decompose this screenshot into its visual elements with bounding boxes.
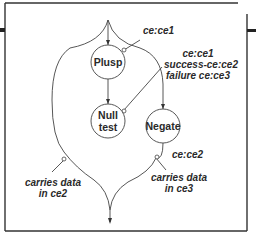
plusp-port-icon bbox=[122, 48, 126, 52]
arrow-output-icon bbox=[108, 218, 112, 224]
nulltest-label: Null test bbox=[88, 109, 128, 133]
left-branch-annotation-line bbox=[52, 160, 64, 172]
arrow-into-plusp-icon bbox=[106, 40, 110, 45]
right-branch-annotation-line2: in ce3 bbox=[146, 183, 212, 194]
right-branch-annotation-line bbox=[156, 158, 166, 170]
nulltest-annotation-line2: success-ce:ce2 bbox=[164, 59, 232, 70]
nulltest-annotation-line3: failure ce:ce3 bbox=[164, 70, 232, 81]
negate-output-annotation: ce:ce2 bbox=[172, 149, 203, 160]
plusp-annotation-line bbox=[124, 40, 140, 50]
nulltest-annotation-line bbox=[124, 67, 162, 110]
plusp-label: Plusp bbox=[88, 56, 128, 68]
diagram-canvas bbox=[0, 0, 256, 236]
left-branch-annotation-line1: carries data bbox=[20, 177, 86, 188]
right-branch-port-icon bbox=[155, 155, 159, 159]
arrow-into-nulltest-icon bbox=[106, 99, 110, 104]
negate-label: Negate bbox=[143, 120, 183, 132]
left-branch-port-icon bbox=[62, 157, 66, 161]
right-tick-mark bbox=[247, 29, 256, 32]
plusp-output-annotation: ce:ce1 bbox=[143, 25, 174, 36]
right-branch-annotation-line1: carries data bbox=[146, 172, 212, 183]
nulltest-annotation-line1: ce:ce1 bbox=[168, 48, 228, 59]
left-branch-annotation-line2: in ce2 bbox=[20, 188, 86, 199]
arrow-into-negate-icon bbox=[161, 104, 165, 109]
left-tick-mark bbox=[0, 28, 5, 32]
